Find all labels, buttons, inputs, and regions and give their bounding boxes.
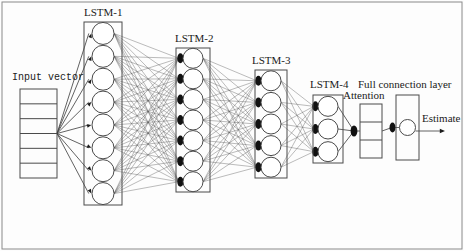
- label-lstm-2: LSTM-2: [175, 32, 214, 44]
- node-lstm-2-5: [183, 131, 203, 151]
- node-lstm-4-2: [318, 119, 338, 139]
- edge-lstm-2-6-to-lstm-3-4: [203, 146, 257, 162]
- node-lstm-1-1: [92, 22, 114, 44]
- edge-lstm-3-4-to-lstm-4-1: [281, 106, 314, 145]
- node-lstm-1-6: [92, 137, 114, 159]
- edge-lstm-2-2-to-lstm-3-4: [203, 79, 257, 146]
- node-lstm-3-4: [261, 136, 281, 156]
- connection-edges: [57, 33, 441, 193]
- edge-lstm-2-1-to-lstm-3-1: [203, 58, 257, 81]
- edge-lstm-2-3-to-lstm-3-4: [203, 99, 257, 145]
- node-lstm-2-1: [183, 48, 203, 68]
- label-lstm-3: LSTM-3: [252, 54, 291, 66]
- edge-lstm-3-4-to-lstm-4-2: [281, 129, 314, 146]
- edge-lstm-1-8-to-lstm-2-5: [114, 141, 179, 194]
- edge-lstm-2-6-to-lstm-3-3: [203, 124, 257, 161]
- edge-lstm-1-8-to-lstm-2-7: [114, 182, 179, 194]
- label-lstm-1: LSTM-1: [84, 6, 123, 18]
- node-lstm-4-1: [318, 96, 338, 116]
- edge-lstm-2-3-to-lstm-3-5: [203, 99, 257, 167]
- label-full-connection: Full connection layer: [358, 78, 452, 90]
- node-lstm-1-8: [92, 183, 114, 205]
- edge-lstm-2-7-to-lstm-3-1: [203, 81, 257, 182]
- label-attention: Attention: [343, 89, 385, 101]
- node-lstm-2-3: [183, 89, 203, 109]
- edge-lstm-1-4-to-lstm-2-1: [114, 58, 179, 102]
- edge-lstm-1-2-to-lstm-2-1: [114, 56, 179, 58]
- edge-lstm-2-7-to-lstm-3-5: [203, 167, 257, 182]
- node-lstm-4-3: [318, 142, 338, 162]
- edge-lstm-3-2-to-lstm-4-1: [281, 102, 314, 106]
- box-attention: [360, 104, 382, 158]
- node-lstm-2-2: [183, 69, 203, 89]
- edge-lstm-1-6-to-lstm-2-3: [114, 99, 179, 147]
- node-lstm-2-6: [183, 151, 203, 171]
- node-lstm-3-3: [261, 114, 281, 134]
- edge-lstm-2-7-to-lstm-3-4: [203, 146, 257, 182]
- layer-nodes: [92, 22, 416, 204]
- edge-lstm-1-5-to-lstm-2-5: [114, 125, 179, 141]
- edge-lstm-2-3-to-lstm-3-3: [203, 99, 257, 124]
- label-estimate: Estimate: [422, 112, 461, 124]
- network-diagram-svg: Input vectorLSTM-1LSTM-2LSTM-3LSTM-4Atte…: [0, 0, 464, 251]
- arrowhead-lstm-1-5: [87, 124, 92, 128]
- network-diagram-root: Input vectorLSTM-1LSTM-2LSTM-3LSTM-4Atte…: [0, 0, 464, 251]
- gate-full-connection: [390, 123, 396, 133]
- node-lstm-1-3: [92, 68, 114, 90]
- label-input-vector: Input vector: [12, 72, 84, 83]
- node-lstm-3-5: [261, 157, 281, 177]
- node-lstm-1-7: [92, 160, 114, 182]
- node-lstm-1-4: [92, 91, 114, 113]
- edge-lstm-3-4-to-lstm-4-3: [281, 146, 314, 152]
- edge-lstm-3-5-to-lstm-4-3: [281, 152, 314, 168]
- edge-lstm-2-3-to-lstm-3-1: [203, 81, 257, 100]
- edge-lstm-3-5-to-lstm-4-2: [281, 129, 314, 167]
- edge-lstm-1-5-to-lstm-2-2: [114, 79, 179, 125]
- node-full-connection: [400, 120, 416, 136]
- node-lstm-2-4: [183, 110, 203, 130]
- gate-attention: [351, 125, 358, 136]
- edge-lstm-2-6-to-lstm-3-1: [203, 81, 257, 161]
- edge-lstm-3-1-to-lstm-4-1: [281, 81, 314, 107]
- edge-lstm-1-1-to-lstm-2-7: [114, 33, 179, 181]
- edge-lstm-2-5-to-lstm-3-2: [203, 102, 257, 140]
- edge-lstm-3-2-to-lstm-4-3: [281, 102, 314, 151]
- edge-lstm-2-4-to-lstm-3-5: [203, 120, 257, 167]
- node-lstm-2-7: [183, 172, 203, 192]
- node-lstm-3-2: [261, 92, 281, 112]
- node-lstm-1-5: [92, 114, 114, 136]
- edge-lstm-1-1-to-lstm-2-1: [114, 33, 179, 58]
- node-lstm-1-2: [92, 45, 114, 67]
- edge-lstm-2-5-to-lstm-3-4: [203, 141, 257, 146]
- edge-lstm-3-1-to-lstm-4-2: [281, 81, 314, 129]
- edge-lstm-2-2-to-lstm-3-2: [203, 79, 257, 103]
- node-lstm-3-1: [261, 71, 281, 91]
- arrowhead-estimate: [440, 129, 445, 133]
- arrowhead-lstm-1-6: [87, 144, 92, 147]
- edge-lstm-1-6-to-lstm-2-6: [114, 148, 179, 161]
- edge-lstm-3-1-to-lstm-4-3: [281, 81, 314, 152]
- layer-labels: Input vectorLSTM-1LSTM-2LSTM-3LSTM-4Atte…: [12, 6, 461, 124]
